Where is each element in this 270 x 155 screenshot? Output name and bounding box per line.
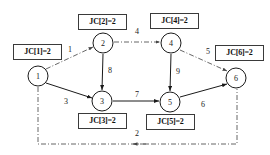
node-1-label: 1 bbox=[36, 72, 40, 81]
edge-weight-1-2: 1 bbox=[68, 45, 72, 54]
edge-weight-2-3: 8 bbox=[108, 66, 112, 75]
node-2-label: 2 bbox=[101, 39, 105, 48]
diagram-canvas: 1 2 3 4 5 6 1 4 5 2 8 3 7 9 6 JC[1]=2 JC… bbox=[0, 0, 270, 155]
edge-weight-1-6: 2 bbox=[135, 129, 139, 138]
node-6-label: 6 bbox=[234, 74, 238, 83]
edge-weight-5-6: 6 bbox=[201, 100, 205, 109]
edge-weight-2-4: 4 bbox=[135, 27, 139, 36]
node-4-label: 4 bbox=[169, 39, 173, 48]
node-3-label: 3 bbox=[100, 97, 104, 106]
jc-box-5: JC[5]=2 bbox=[146, 114, 195, 130]
edge-weight-3-5: 7 bbox=[135, 90, 139, 99]
graph-svg: 1 2 3 4 5 6 1 4 5 2 8 3 7 9 6 bbox=[0, 0, 270, 155]
jc-box-1: JC[1]=2 bbox=[13, 44, 62, 60]
edge-1-3 bbox=[46, 83, 92, 98]
edge-weight-1-3: 3 bbox=[64, 97, 68, 106]
jc-box-4: JC[4]=2 bbox=[150, 13, 199, 29]
edge-weight-4-6: 5 bbox=[206, 47, 210, 56]
jc-box-6: JC[6]=2 bbox=[215, 45, 264, 61]
node-5-label: 5 bbox=[168, 98, 172, 107]
edge-2-3 bbox=[102, 54, 103, 90]
edge-4-5 bbox=[170, 54, 171, 91]
edge-weight-4-5: 9 bbox=[176, 67, 180, 76]
edge-5-6 bbox=[180, 84, 227, 97]
jc-box-3: JC[3]=2 bbox=[78, 113, 127, 129]
jc-box-2: JC[2]=2 bbox=[78, 14, 127, 30]
